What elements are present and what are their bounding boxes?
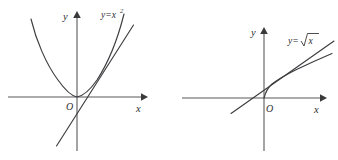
right-curve-label-radicand: x <box>308 36 314 46</box>
left-y-axis <box>73 11 81 151</box>
right-y-axis-label: y <box>250 27 256 38</box>
right-curve-sqrt <box>264 54 332 99</box>
left-curve-label: y=x 2 <box>100 7 124 20</box>
left-y-axis-arrowhead <box>73 11 81 18</box>
right-curve-label: y= x <box>287 34 319 47</box>
right-x-axis-arrowhead <box>320 94 327 102</box>
left-y-axis-label: y <box>62 11 68 22</box>
right-tangent-line <box>231 41 334 114</box>
left-tangent-line <box>57 25 134 146</box>
left-curve-label-base: y=x <box>100 10 117 20</box>
left-x-axis-label: x <box>135 103 141 114</box>
math-figure: y x O y=x 2 <box>0 0 338 160</box>
left-origin-label: O <box>66 101 73 112</box>
right-panel: y x O y= x <box>182 27 334 151</box>
figure-canvas: y x O y=x 2 <box>0 0 338 160</box>
left-panel: y x O y=x 2 <box>8 7 148 151</box>
right-x-axis <box>182 94 327 102</box>
right-y-axis-arrowhead <box>260 27 268 34</box>
left-x-axis-arrowhead <box>141 93 148 101</box>
right-x-axis-label: x <box>313 104 319 115</box>
right-curve-label-prefix: y= <box>287 36 299 46</box>
right-origin-label: O <box>266 103 273 114</box>
left-curve-label-exponent: 2 <box>120 7 124 14</box>
